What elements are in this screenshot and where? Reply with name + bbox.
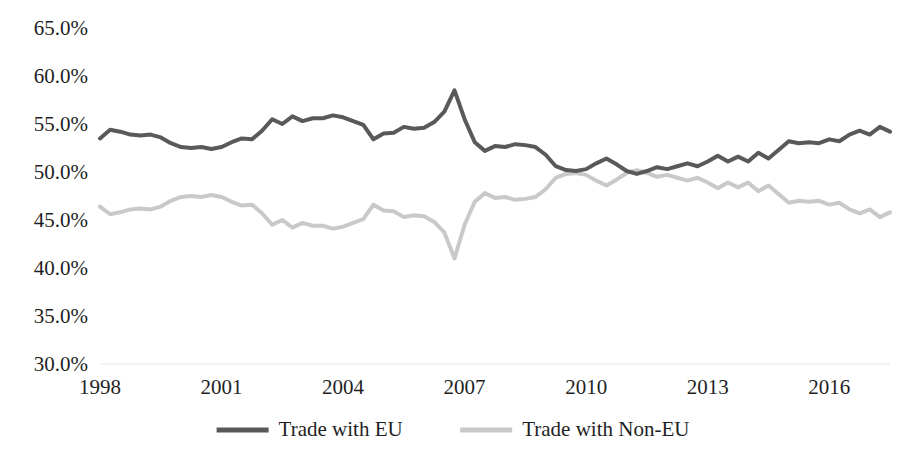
legend-label-trade-with-eu: Trade with EU [279,417,403,441]
x-axis-tick-label: 2007 [444,375,486,399]
y-axis-tick-label: 55.0% [34,112,88,136]
y-axis-tick-label: 65.0% [34,16,88,40]
y-axis-tick-label: 40.0% [34,256,88,280]
y-axis-tick-label: 50.0% [34,160,88,184]
x-axis-tick-label: 2016 [808,375,850,399]
y-axis-tick-label: 60.0% [34,64,88,88]
x-axis-tick-label: 2010 [565,375,607,399]
x-axis-tick-label: 2004 [322,375,365,399]
y-axis-tick-label: 45.0% [34,208,88,232]
x-axis-tick-label: 2013 [687,375,729,399]
y-axis-tick-label: 30.0% [34,352,88,376]
line-chart: 65.0%60.0%55.0%50.0%45.0%40.0%35.0%30.0%… [0,0,903,467]
y-axis-tick-labels: 65.0%60.0%55.0%50.0%45.0%40.0%35.0%30.0% [34,16,88,376]
series-line-trade-with-eu [100,90,890,174]
x-axis-tick-label: 1998 [79,375,121,399]
x-axis-tick-labels: 1998200120042007201020132016 [79,375,850,399]
y-axis-tick-label: 35.0% [34,304,88,328]
chart-container: 65.0%60.0%55.0%50.0%45.0%40.0%35.0%30.0%… [0,0,903,467]
series-lines [100,90,890,258]
series-line-trade-with-non-eu [100,170,890,258]
legend-label-trade-with-non-eu: Trade with Non-EU [522,417,689,441]
chart-legend: Trade with EUTrade with Non-EU [217,417,690,441]
x-axis-tick-label: 2001 [201,375,243,399]
